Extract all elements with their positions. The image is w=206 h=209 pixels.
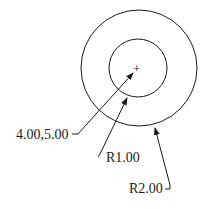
cad-drawing: + 4.00,5.00 R1.00 R2.00 bbox=[0, 0, 206, 209]
outer-radius-leader bbox=[155, 128, 170, 189]
center-mark: + bbox=[133, 61, 140, 76]
center-coordinate-label: 4.00,5.00 bbox=[16, 127, 69, 142]
inner-radius-label: R1.00 bbox=[106, 150, 140, 165]
drawing-canvas: + 4.00,5.00 R1.00 R2.00 bbox=[0, 0, 206, 209]
outer-radius-label: R2.00 bbox=[129, 181, 163, 196]
